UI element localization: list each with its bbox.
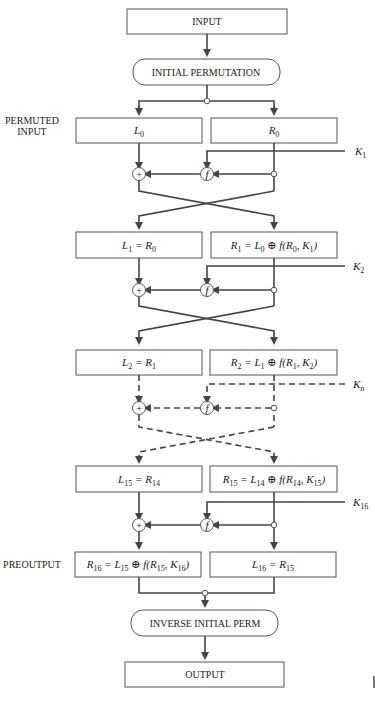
- input-block: INPUT: [127, 9, 287, 34]
- preoutput-label: PREOUTPUT: [3, 559, 61, 570]
- initial-permutation-block: INITIAL PERMUTATION: [133, 59, 280, 85]
- svg-text:+: +: [136, 403, 142, 414]
- r16-block: R16 = L15 ⊕ f(R15, K16): [75, 552, 201, 577]
- svg-text:+: +: [136, 285, 142, 296]
- l15-block: L15 = R14: [76, 466, 202, 492]
- key-label-kn: Kn: [352, 378, 364, 393]
- r15-block: R15 = L14 ⊕ f(R14, K15): [210, 466, 337, 492]
- key-label-k16: K16: [352, 496, 368, 511]
- l1-block: L1 = R0: [76, 232, 202, 258]
- merge-junction-icon: [202, 590, 208, 596]
- r0-block: R0: [211, 118, 337, 143]
- inverse-initial-perm-label: INVERSE INITIAL PERM: [150, 618, 261, 629]
- l0-block: L0: [76, 118, 202, 143]
- round-n-wiring-dashed: [139, 375, 345, 460]
- des-feistel-diagram: INPUT INITIAL PERMUTATION PERMUTED INPUT…: [0, 0, 375, 701]
- round-16-wiring: [139, 492, 345, 546]
- output-block: OUTPUT: [125, 662, 284, 687]
- svg-text:+: +: [136, 169, 142, 180]
- branch-junction-icon: [271, 287, 277, 293]
- r2-block: R2 = L1 ⊕ f(R1, K2): [210, 350, 337, 375]
- initial-permutation-label: INITIAL PERMUTATION: [152, 67, 261, 78]
- r1-block: R1 = L0 ⊕ f(R0, K1): [211, 232, 337, 258]
- round-1-wiring: [139, 143, 345, 226]
- key-label-k1: K1: [354, 145, 366, 160]
- l16-block: L16 = R15: [210, 552, 336, 577]
- inverse-initial-perm-block: INVERSE INITIAL PERM: [131, 610, 278, 636]
- output-label: OUTPUT: [185, 669, 224, 680]
- split-junction-icon: [204, 98, 210, 104]
- branch-junction-icon: [271, 522, 277, 528]
- branch-junction-icon: [271, 405, 277, 411]
- round-2-wiring: [139, 258, 345, 341]
- svg-text:+: +: [136, 520, 142, 531]
- permuted-input-label-2: INPUT: [17, 126, 46, 137]
- permuted-input-label-1: PERMUTED: [5, 115, 59, 126]
- l2-block: L2 = R1: [76, 350, 202, 375]
- input-label: INPUT: [192, 16, 221, 27]
- branch-junction-icon: [271, 171, 277, 177]
- key-label-k2: K2: [352, 260, 364, 275]
